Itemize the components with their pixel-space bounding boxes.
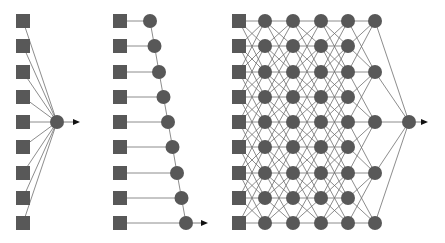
hidden-neuron-layer-3	[314, 140, 328, 154]
hidden-neuron-layer-2	[286, 166, 300, 180]
hidden-neuron-layer-2	[286, 115, 300, 129]
chain-neuron	[161, 115, 175, 129]
input-node	[16, 216, 30, 230]
hidden-neuron-layer-5	[368, 115, 382, 129]
hidden-neuron-layer-3	[314, 166, 328, 180]
input-node	[232, 115, 246, 129]
hidden-neuron-layer-3	[314, 39, 328, 53]
hidden-neuron-layer-2	[286, 216, 300, 230]
input-node	[232, 191, 246, 205]
output-neuron	[402, 115, 416, 129]
neural-network-diagram	[0, 0, 445, 243]
input-node	[113, 14, 127, 28]
input-node	[16, 191, 30, 205]
hidden-neuron-layer-2	[286, 140, 300, 154]
hidden-neuron-layer-5	[368, 14, 382, 28]
chain-neuron	[166, 140, 180, 154]
chain-neuron	[148, 39, 162, 53]
input-node	[16, 115, 30, 129]
input-node	[232, 39, 246, 53]
input-node	[113, 140, 127, 154]
hidden-neuron-layer-1	[258, 14, 272, 28]
hidden-neuron-layer-4	[341, 166, 355, 180]
diagram-canvas	[0, 0, 445, 243]
hidden-neuron-layer-3	[314, 14, 328, 28]
hidden-neuron-layer-3	[314, 216, 328, 230]
hidden-neuron-layer-3	[314, 191, 328, 205]
input-node	[16, 140, 30, 154]
hidden-neuron-layer-1	[258, 65, 272, 79]
hidden-neuron-layer-3	[314, 65, 328, 79]
hidden-neuron-layer-1	[258, 166, 272, 180]
hidden-neuron-layer-4	[341, 39, 355, 53]
input-node	[113, 115, 127, 129]
output-arrow-head-icon	[421, 119, 428, 125]
hidden-neuron-layer-4	[341, 14, 355, 28]
to-output-edge	[375, 122, 409, 173]
input-node	[232, 140, 246, 154]
output-arrow-head-icon	[201, 220, 208, 226]
output-arrow-head-icon	[73, 119, 80, 125]
hidden-neuron-layer-2	[286, 14, 300, 28]
chain-neuron	[170, 166, 184, 180]
hidden-neuron-layer-3	[314, 90, 328, 104]
input-node	[232, 65, 246, 79]
hidden-neuron-layer-4	[341, 216, 355, 230]
hidden-neuron-layer-2	[286, 90, 300, 104]
input-node	[16, 166, 30, 180]
hidden-neuron-layer-2	[286, 65, 300, 79]
output-neuron	[50, 115, 64, 129]
input-node	[16, 90, 30, 104]
hidden-neuron-layer-3	[314, 115, 328, 129]
hidden-neuron-layer-1	[258, 90, 272, 104]
input-to-output-edge	[23, 122, 57, 198]
hidden-neuron-layer-1	[258, 115, 272, 129]
hidden-neuron-layer-5	[368, 65, 382, 79]
hidden-neuron-layer-2	[286, 191, 300, 205]
hidden-neuron-layer-1	[258, 140, 272, 154]
hidden-neuron-layer-1	[258, 216, 272, 230]
hidden-neuron-layer-4	[341, 90, 355, 104]
input-node	[232, 166, 246, 180]
input-node	[113, 65, 127, 79]
input-node	[113, 39, 127, 53]
input-node	[16, 14, 30, 28]
chain-neuron	[143, 14, 157, 28]
chain-neuron	[179, 216, 193, 230]
hidden-neuron-layer-1	[258, 191, 272, 205]
input-node	[113, 166, 127, 180]
hidden-neuron-layer-4	[341, 191, 355, 205]
chain-neuron	[175, 191, 189, 205]
hidden-neuron-layer-4	[341, 115, 355, 129]
input-node	[16, 65, 30, 79]
chain-neuron	[157, 90, 171, 104]
hidden-neuron-layer-1	[258, 39, 272, 53]
hidden-neuron-layer-5	[368, 166, 382, 180]
edges-layer	[23, 21, 423, 223]
hidden-neuron-layer-4	[341, 140, 355, 154]
input-to-output-edge	[23, 46, 57, 122]
input-node	[16, 39, 30, 53]
chain-neuron	[152, 65, 166, 79]
hidden-neuron-layer-5	[368, 216, 382, 230]
input-node	[232, 90, 246, 104]
input-node	[113, 90, 127, 104]
hidden-neuron-layer-2	[286, 39, 300, 53]
input-node	[232, 216, 246, 230]
input-node	[232, 14, 246, 28]
to-output-edge	[375, 72, 409, 122]
input-node	[113, 216, 127, 230]
input-node	[113, 191, 127, 205]
hidden-neuron-layer-4	[341, 65, 355, 79]
